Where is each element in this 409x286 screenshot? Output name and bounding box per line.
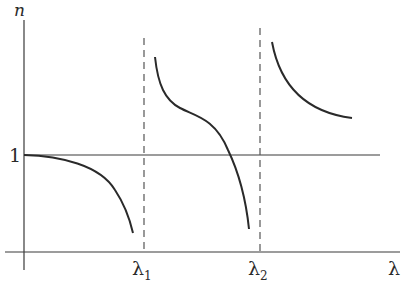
lambda1-label: λ1 xyxy=(132,257,152,283)
x-axis-label: λ xyxy=(388,257,400,279)
lambda2-symbol: λ xyxy=(248,257,260,279)
lambda1-subscript: 1 xyxy=(144,269,152,283)
unity-label: 1 xyxy=(9,144,21,166)
lambda1-symbol: λ xyxy=(132,257,144,279)
lambda2-subscript: 2 xyxy=(260,269,268,283)
y-axis-label: n xyxy=(14,0,25,20)
dispersion-diagram xyxy=(0,0,409,286)
curve-segment-3 xyxy=(272,42,352,118)
curve-segment-1 xyxy=(24,155,133,233)
lambda2-label: λ2 xyxy=(248,257,268,283)
curve-segment-2 xyxy=(155,57,249,229)
